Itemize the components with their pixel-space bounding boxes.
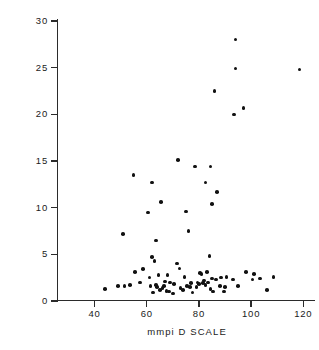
x-axis-label: mmpi D SCALE xyxy=(58,326,316,337)
data-point xyxy=(210,202,214,206)
data-point xyxy=(141,267,145,271)
y-tick-mark xyxy=(51,160,57,161)
data-point xyxy=(189,281,193,285)
data-point xyxy=(148,276,152,280)
y-tick-label: 25 xyxy=(8,62,48,73)
data-point xyxy=(133,270,137,274)
y-tick-mark xyxy=(51,20,57,21)
x-tick-label: 80 xyxy=(179,308,219,319)
data-point xyxy=(265,288,269,292)
x-tick-label: 100 xyxy=(231,308,271,319)
data-point xyxy=(103,287,107,291)
x-tick-label: 60 xyxy=(127,308,167,319)
data-point xyxy=(272,275,276,279)
y-tick-mark xyxy=(51,207,57,208)
x-tick-label: 40 xyxy=(75,308,115,319)
y-tick-label: 30 xyxy=(8,15,48,26)
data-point xyxy=(175,262,179,266)
data-point xyxy=(298,68,302,72)
data-point xyxy=(215,190,219,194)
data-point xyxy=(178,267,182,271)
data-point xyxy=(150,181,154,185)
plot-area xyxy=(58,21,319,301)
x-tick-mark xyxy=(250,301,251,307)
data-point xyxy=(172,282,176,286)
data-point xyxy=(138,281,142,285)
data-point xyxy=(176,158,180,162)
data-point xyxy=(218,284,222,288)
data-point xyxy=(151,291,155,295)
scatter-plot-figure: POST DEX PLASMA 17OH (μg %) 051015202530… xyxy=(0,0,319,350)
data-point xyxy=(191,291,195,295)
data-point xyxy=(209,165,213,169)
data-point xyxy=(166,273,170,277)
data-point xyxy=(231,278,235,282)
data-point xyxy=(244,270,248,274)
y-tick-mark xyxy=(51,300,57,301)
data-point xyxy=(204,181,208,185)
data-point xyxy=(128,283,132,287)
y-tick-label: 0 xyxy=(8,295,48,306)
data-point xyxy=(225,275,229,279)
data-point xyxy=(157,273,161,277)
data-point xyxy=(200,272,204,276)
x-tick-mark xyxy=(146,301,147,307)
y-tick-label: 15 xyxy=(8,155,48,166)
y-tick-mark xyxy=(51,114,57,115)
data-point xyxy=(159,200,163,204)
data-point xyxy=(121,232,125,236)
data-point xyxy=(223,285,227,289)
y-tick-mark xyxy=(51,67,57,68)
data-point xyxy=(206,281,210,285)
data-point xyxy=(205,270,209,274)
data-point xyxy=(219,276,223,280)
x-tick-mark xyxy=(94,301,95,307)
y-tick-label: 5 xyxy=(8,248,48,259)
x-tick-mark xyxy=(198,301,199,307)
data-point xyxy=(183,275,187,279)
data-point xyxy=(193,165,197,169)
data-point xyxy=(222,290,226,294)
data-point xyxy=(123,284,127,288)
data-point xyxy=(213,89,217,93)
data-point xyxy=(242,106,246,110)
x-tick-mark xyxy=(303,301,304,307)
x-tick-label: 120 xyxy=(283,308,319,319)
data-point xyxy=(132,173,136,177)
data-point xyxy=(234,38,238,42)
data-point xyxy=(258,277,262,281)
data-point xyxy=(181,288,185,292)
data-point xyxy=(116,284,120,288)
data-point xyxy=(234,67,238,71)
data-point xyxy=(208,254,212,258)
data-point xyxy=(146,211,150,215)
data-point xyxy=(154,239,158,243)
data-point xyxy=(187,229,191,233)
data-point xyxy=(171,292,175,296)
data-point xyxy=(232,113,236,117)
data-point xyxy=(252,272,256,276)
data-point xyxy=(211,290,215,294)
data-point xyxy=(236,284,240,288)
y-tick-mark xyxy=(51,254,57,255)
y-tick-label: 10 xyxy=(8,202,48,213)
data-point xyxy=(153,259,157,263)
data-point xyxy=(214,278,218,282)
data-point xyxy=(149,284,153,288)
data-point xyxy=(251,278,255,282)
data-point xyxy=(188,285,192,289)
data-point xyxy=(162,284,166,288)
y-tick-label: 20 xyxy=(8,108,48,119)
data-point xyxy=(163,280,167,284)
data-point xyxy=(184,210,188,214)
